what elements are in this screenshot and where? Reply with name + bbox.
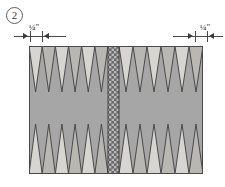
diagram-canvas: 2 ¼" ¼": [0, 0, 225, 187]
dimension-witness-tick-right-a: [195, 31, 196, 42]
dimension-arrow-left-outward: [44, 33, 49, 39]
dimension-extension-line-right: [173, 36, 223, 37]
dimension-extension-line-left: [14, 36, 66, 37]
dimension-witness-tick-left-b: [42, 31, 43, 42]
dimension-witness-tick-left-a: [30, 31, 31, 42]
quilt-panel: [29, 46, 203, 174]
dimension-callout-left: ¼": [14, 22, 66, 42]
dimension-witness-tick-right-b: [207, 31, 208, 42]
center-striped-bar: [108, 46, 119, 174]
dimension-label-right: ¼": [179, 22, 225, 32]
quilt-panel-graphic: [29, 46, 203, 174]
dimension-arrow-left-inward: [23, 33, 28, 39]
dimension-arrow-right-inward: [188, 33, 193, 39]
dimension-arrow-right-outward: [209, 33, 214, 39]
dimension-callout-right: ¼": [173, 22, 225, 42]
dimension-label-left: ¼": [8, 22, 60, 32]
